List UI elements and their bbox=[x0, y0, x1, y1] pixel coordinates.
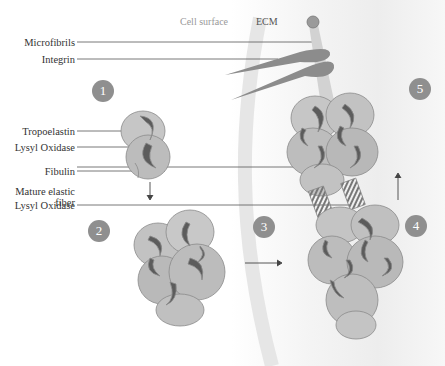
integrin-shapes bbox=[225, 49, 334, 100]
label-tropoelastin: Tropoelastin bbox=[22, 126, 75, 137]
arrow-step1-to-2 bbox=[147, 182, 153, 200]
label-microfibrils: Microfibrils bbox=[24, 37, 75, 48]
step-badge-1: 1 bbox=[92, 80, 114, 102]
mature-fiber-top bbox=[287, 93, 378, 218]
step-badge-2: 2 bbox=[88, 220, 110, 242]
diagram-canvas: Cell surface ECM Microfibrils Integrin T… bbox=[0, 0, 445, 366]
label-integrin: Integrin bbox=[42, 54, 75, 65]
label-fibulin: Fibulin bbox=[45, 166, 75, 177]
label-lysyl-oxidase-1: Lysyl Oxidase bbox=[15, 142, 75, 153]
step-badge-5: 5 bbox=[409, 78, 431, 100]
ecm-header: ECM bbox=[256, 16, 278, 27]
step-badge-4: 4 bbox=[405, 215, 427, 237]
cell-surface-header: Cell surface bbox=[180, 16, 228, 27]
globule-step1 bbox=[121, 111, 170, 179]
arrow-step4-to-5 bbox=[395, 173, 401, 200]
globule-cluster-step2 bbox=[134, 210, 225, 326]
step-badge-3: 3 bbox=[253, 216, 275, 238]
microfibril-head-icon bbox=[307, 16, 319, 28]
label-lysyl-oxidase-2: Lysyl Oxidase bbox=[15, 200, 75, 211]
mature-fiber-bottom bbox=[308, 205, 403, 339]
